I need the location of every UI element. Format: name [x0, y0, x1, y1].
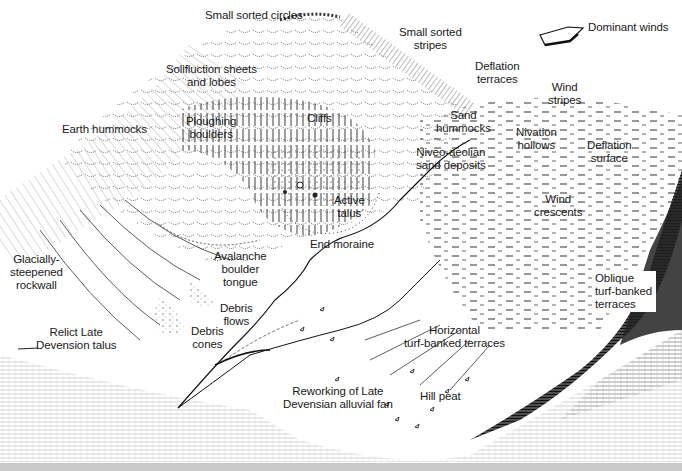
label-niveo-aeolian-sand-deposits: Niveo-aeolian sand deposits	[416, 146, 486, 172]
label-deflation-surface: Deflation surface	[587, 139, 632, 165]
label-end-moraine: End moraine	[310, 238, 374, 251]
label-avalanche-boulder-tongue: Avalanche boulder tongue	[214, 250, 267, 289]
label-wind-stripes: Wind stripes	[548, 81, 581, 107]
wind-arrow-icon	[540, 27, 583, 45]
label-hill-peat: Hill peat	[420, 390, 461, 403]
bottom-border-band	[0, 463, 682, 471]
talus-mark	[18, 348, 38, 349]
label-debris-cones: Debris cones	[191, 325, 224, 351]
label-reworking-late-devensian-alluvial-fan: Reworking of Late Devensian alluvial fan	[283, 385, 393, 411]
label-cliffs: Cliffs	[307, 112, 332, 125]
label-glacially-steepened-rockwall: Glacially- steepened rockwall	[10, 253, 63, 292]
label-deflation-terraces: Deflation terraces	[475, 60, 520, 86]
label-ploughing-boulders: Ploughing boulders	[186, 115, 236, 141]
label-oblique-turf-banked-terraces: Oblique turf-banked terraces	[592, 271, 656, 312]
label-earth-hummocks: Earth hummocks	[62, 123, 147, 136]
label-wind-crescents: Wind crescents	[534, 193, 582, 219]
label-debris-flows: Debris flows	[220, 302, 253, 328]
label-solifluction-sheets-and-lobes: Solifluction sheets and lobes	[166, 63, 257, 89]
legend-dominant-winds: Dominant winds	[588, 21, 668, 34]
landform-block-diagram: Small sorted circles Small sorted stripe…	[0, 0, 682, 471]
label-horizontal-turf-banked-terraces: Horizontal turf-banked terraces	[404, 324, 505, 350]
label-relict-late-devension-talus: Relict Late Devension talus	[36, 326, 116, 352]
label-nivation-hollows: Nivation hollows	[516, 126, 557, 152]
label-small-sorted-stripes: Small sorted stripes	[399, 26, 462, 52]
label-small-sorted-circles: Small sorted circles	[205, 9, 303, 22]
label-sand-hummocks: Sand hummocks	[436, 109, 491, 135]
label-active-talus: Active talus	[334, 194, 365, 220]
